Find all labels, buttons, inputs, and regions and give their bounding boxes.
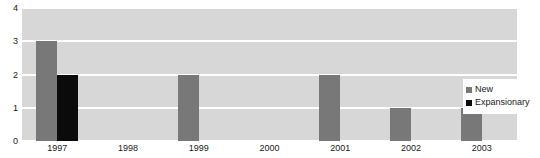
legend-item[interactable]: New (466, 83, 538, 96)
y-tick-label: 2 (2, 70, 18, 79)
bar-group (234, 8, 305, 141)
bars-layer (22, 8, 517, 141)
bar-group (305, 8, 376, 141)
bar (57, 75, 78, 142)
legend-label: Expansionary (475, 98, 530, 107)
x-tick-label: 2002 (401, 143, 421, 154)
bar-group (93, 8, 164, 141)
x-tick-label: 2000 (259, 143, 279, 154)
plot-area (22, 8, 517, 141)
bar (319, 75, 340, 142)
legend-swatch-icon (466, 87, 472, 93)
bar-group (446, 8, 517, 141)
y-tick-label: 0 (2, 137, 18, 146)
bar (178, 75, 199, 142)
bar-group (163, 8, 234, 141)
x-axis: 1997199819992000200120022003 (22, 143, 517, 158)
chart-legend: NewExpansionary (463, 79, 540, 114)
x-tick-label: 2001 (330, 143, 350, 154)
bar-group (376, 8, 447, 141)
legend-label: New (475, 85, 493, 94)
bar-chart: ·· ·· · · · · 01234 19971998199920002001… (0, 0, 540, 158)
bar (390, 108, 411, 141)
x-tick-label: 1999 (189, 143, 209, 154)
x-tick-label: 2003 (472, 143, 492, 154)
bar-group (22, 8, 93, 141)
bar (36, 41, 57, 141)
y-tick-label: 4 (2, 4, 18, 13)
cropped-title-remnant: ·· ·· · · · · (0, 0, 540, 3)
x-tick-label: 1997 (47, 143, 67, 154)
x-tick-label: 1998 (118, 143, 138, 154)
legend-swatch-icon (466, 100, 472, 106)
y-axis: 01234 (0, 0, 22, 158)
y-tick-label: 3 (2, 37, 18, 46)
y-tick-label: 1 (2, 103, 18, 112)
legend-item[interactable]: Expansionary (466, 96, 538, 109)
